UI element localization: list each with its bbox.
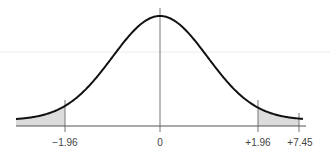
normal-distribution-chart: −1.96 0 +1.96 +7.45	[0, 0, 330, 163]
tick-label-zero: 0	[157, 137, 163, 148]
tick-label-pos-1-96: +1.96	[245, 137, 271, 148]
tick-label-observed: +7.45	[287, 137, 313, 148]
tick-label-neg-1-96: −1.96	[52, 137, 78, 148]
